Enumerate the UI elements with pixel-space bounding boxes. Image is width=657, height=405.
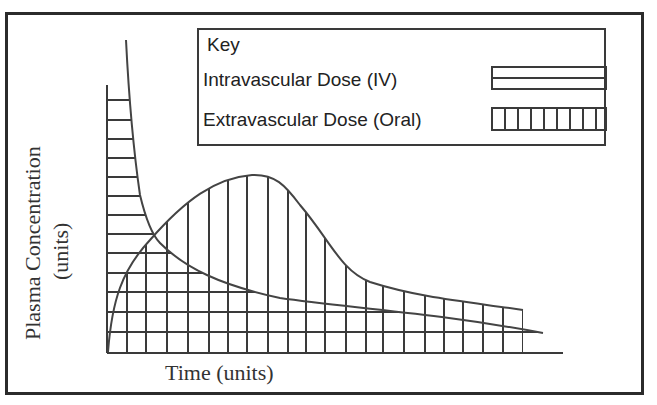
oral-curve (108, 175, 523, 352)
oral-hatch-area (127, 150, 523, 353)
horizontal-hatch-swatch-icon (491, 66, 607, 90)
legend-label-iv: Intravascular Dose (IV) (203, 69, 397, 91)
y-axis-units-label: (units) (48, 223, 74, 280)
legend-title: Key (207, 34, 240, 56)
vertical-hatch-swatch-icon (491, 107, 607, 131)
y-axis-label: Plasma Concentration (20, 146, 46, 340)
x-axis-label: Time (units) (165, 360, 274, 386)
legend: Key Intravascular Dose (IV) Extravascula… (197, 28, 606, 146)
legend-label-oral: Extravascular Dose (Oral) (203, 109, 422, 131)
pharmacokinetic-figure: Key Intravascular Dose (IV) Extravascula… (0, 0, 657, 405)
